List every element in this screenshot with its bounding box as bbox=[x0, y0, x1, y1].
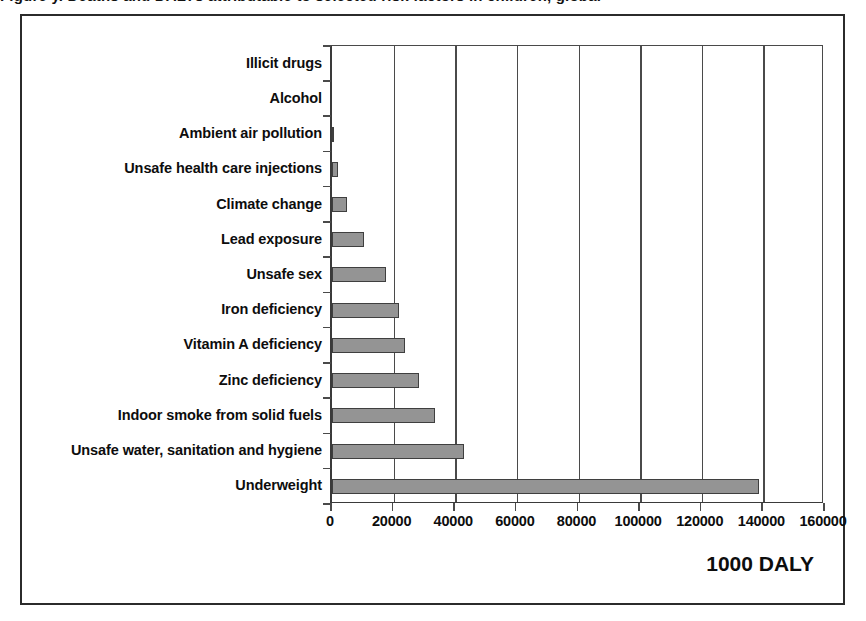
bar bbox=[332, 303, 399, 318]
y-axis-tick bbox=[323, 221, 331, 223]
y-axis-tick bbox=[323, 151, 331, 153]
bar bbox=[332, 444, 464, 459]
bar-row bbox=[332, 328, 825, 363]
bar-row bbox=[332, 222, 825, 257]
bar-row bbox=[332, 187, 825, 222]
y-axis-label: Unsafe water, sanitation and hygiene bbox=[10, 442, 322, 458]
x-axis-unit-label: 1000 DALY bbox=[0, 552, 814, 576]
x-axis-tick bbox=[700, 503, 702, 511]
y-axis-tick bbox=[323, 256, 331, 258]
x-axis-tick-label: 0 bbox=[326, 513, 334, 529]
x-axis-tick-label: 60000 bbox=[495, 513, 534, 529]
y-axis-label: Ambient air pollution bbox=[10, 125, 322, 141]
bar-row bbox=[332, 81, 825, 116]
x-axis-tick bbox=[392, 503, 394, 511]
y-axis-label: Illicit drugs bbox=[10, 55, 322, 71]
y-axis-label: Lead exposure bbox=[10, 231, 322, 247]
bar-row bbox=[332, 46, 825, 81]
bar bbox=[332, 479, 759, 494]
x-axis-tick bbox=[577, 503, 579, 511]
x-axis-tick-label: 100000 bbox=[615, 513, 662, 529]
bar-row bbox=[332, 398, 825, 433]
y-axis-tick bbox=[323, 397, 331, 399]
x-axis-tick-label: 40000 bbox=[434, 513, 473, 529]
bar-row bbox=[332, 469, 825, 504]
x-axis-tick bbox=[823, 503, 825, 511]
y-axis-tick bbox=[323, 468, 331, 470]
y-axis-label: Alcohol bbox=[10, 90, 322, 106]
y-axis-tick bbox=[323, 186, 331, 188]
y-axis-tick bbox=[323, 45, 331, 47]
x-axis-tick-label: 140000 bbox=[738, 513, 785, 529]
y-axis-label: Unsafe health care injections bbox=[10, 160, 322, 176]
x-axis-tick bbox=[638, 503, 640, 511]
y-axis-tick bbox=[323, 115, 331, 117]
y-axis-label: Climate change bbox=[10, 196, 322, 212]
x-axis-tick-label: 120000 bbox=[676, 513, 723, 529]
x-axis-tick bbox=[330, 503, 332, 511]
y-axis-label: Zinc deficiency bbox=[10, 372, 322, 388]
y-axis-label: Vitamin A deficiency bbox=[10, 336, 322, 352]
y-axis-tick bbox=[323, 80, 331, 82]
bar bbox=[332, 267, 386, 282]
x-axis-tick-label: 160000 bbox=[799, 513, 846, 529]
bar bbox=[332, 373, 419, 388]
bar-chart: Illicit drugsAlcoholAmbient air pollutio… bbox=[0, 0, 866, 621]
x-axis-tick bbox=[453, 503, 455, 511]
bar bbox=[332, 197, 347, 212]
bar-row bbox=[332, 293, 825, 328]
bar bbox=[332, 338, 405, 353]
bar bbox=[332, 232, 364, 247]
bar-row bbox=[332, 152, 825, 187]
x-axis-tick bbox=[761, 503, 763, 511]
y-axis-tick bbox=[323, 292, 331, 294]
bar-row bbox=[332, 434, 825, 469]
bar-row bbox=[332, 363, 825, 398]
y-axis-tick bbox=[323, 327, 331, 329]
y-axis-label: Indoor smoke from solid fuels bbox=[10, 407, 322, 423]
bar bbox=[332, 408, 435, 423]
x-axis-tick-label: 80000 bbox=[557, 513, 596, 529]
bar-row bbox=[332, 257, 825, 292]
bar bbox=[332, 162, 338, 177]
y-axis-tick bbox=[323, 433, 331, 435]
y-axis-labels: Illicit drugsAlcoholAmbient air pollutio… bbox=[8, 45, 322, 503]
y-axis-label: Iron deficiency bbox=[10, 301, 322, 317]
x-axis-tick bbox=[515, 503, 517, 511]
y-axis-label: Underweight bbox=[10, 477, 322, 493]
y-axis-tick bbox=[323, 362, 331, 364]
bar bbox=[332, 127, 334, 142]
y-axis-label: Unsafe sex bbox=[10, 266, 322, 282]
bar-row bbox=[332, 116, 825, 151]
plot-area bbox=[330, 45, 823, 503]
x-axis-tick-label: 20000 bbox=[372, 513, 411, 529]
